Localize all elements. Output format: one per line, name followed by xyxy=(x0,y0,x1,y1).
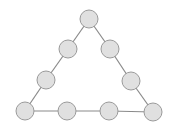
node-bottom-4 xyxy=(144,103,162,121)
node-right-upper xyxy=(101,40,119,58)
node-left-upper xyxy=(59,40,77,58)
node-bottom-2 xyxy=(58,102,76,120)
edges xyxy=(25,19,153,112)
triangle-node-diagram xyxy=(0,0,170,136)
node-top xyxy=(80,10,98,28)
node-bottom-3 xyxy=(100,102,118,120)
node-right-lower xyxy=(122,72,140,90)
node-left-lower xyxy=(37,71,55,89)
node-bottom-1 xyxy=(16,102,34,120)
nodes xyxy=(16,10,162,121)
